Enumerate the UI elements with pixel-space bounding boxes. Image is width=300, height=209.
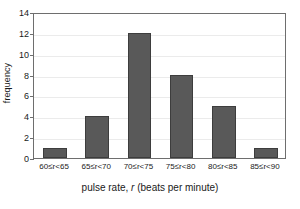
x-axis-tick-labels: 60≤r<6565≤r<7070≤r<7575≤r<8080≤r<8585≤r<… — [33, 161, 286, 175]
bar — [254, 148, 278, 158]
y-axis-tick-label: 14 — [19, 9, 29, 18]
bar — [43, 148, 67, 158]
y-axis-title: frequency — [0, 0, 14, 165]
x-axis-tick-label: 65≤r<70 — [81, 161, 111, 172]
y-axis-title-text: frequency — [2, 62, 12, 102]
bar — [128, 33, 152, 158]
x-axis-title-prefix: pulse rate, — [82, 182, 131, 193]
bar — [85, 116, 109, 158]
x-axis-tick-label: 70≤r<75 — [124, 161, 154, 172]
x-axis-tick-label: 75≤r<80 — [166, 161, 196, 172]
y-axis-tick-label: 12 — [19, 29, 29, 38]
y-axis-tick-label: 10 — [19, 50, 29, 59]
x-axis-tick-label: 85≤r<90 — [250, 161, 280, 172]
y-axis-tick-mark — [30, 159, 34, 160]
bars — [34, 14, 285, 158]
bar — [212, 106, 236, 158]
histogram-figure: frequency 02468101214 60≤r<6565≤r<7070≤r… — [0, 0, 300, 209]
plot-area — [33, 13, 286, 159]
bar — [170, 75, 194, 158]
x-axis-title: pulse rate, r (beats per minute) — [0, 182, 300, 193]
x-axis-title-suffix: (beats per minute) — [134, 182, 218, 193]
x-axis-tick-label: 60≤r<65 — [39, 161, 69, 172]
x-axis-tick-label: 80≤r<85 — [208, 161, 238, 172]
